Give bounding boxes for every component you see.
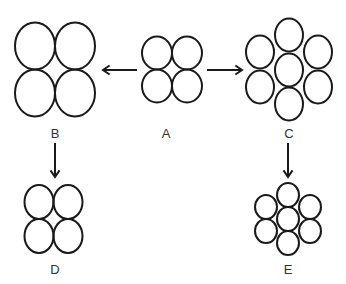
circle-shape — [275, 54, 303, 87]
arrow-a-to-c — [207, 65, 242, 74]
circle-shape — [55, 70, 95, 117]
arrow-c-to-e — [283, 143, 292, 177]
cluster-a — [142, 37, 202, 103]
circle-shape — [172, 37, 202, 70]
circle-shape — [304, 71, 332, 104]
circle-shape — [255, 195, 277, 219]
circle-shape — [277, 231, 299, 255]
label-e: E — [284, 262, 293, 277]
label-d: D — [50, 262, 59, 277]
cluster-d — [25, 185, 83, 253]
arrow-a-to-b — [103, 65, 137, 74]
circle-shape — [277, 207, 299, 231]
circle-shape — [172, 70, 202, 103]
circle-shape — [54, 185, 83, 219]
label-a: A — [162, 126, 171, 141]
circle-shape — [54, 219, 83, 253]
circle-shape — [55, 23, 95, 70]
circle-shape — [246, 36, 274, 69]
circle-shape — [246, 71, 274, 104]
label-c: C — [284, 126, 293, 141]
circle-shape — [304, 36, 332, 69]
circle-shape — [275, 88, 303, 121]
arrow-b-to-d — [50, 143, 59, 177]
circle-shape — [25, 185, 54, 219]
circle-shape — [299, 195, 321, 219]
cluster-e — [255, 183, 321, 255]
circle-shape — [275, 19, 303, 52]
circle-shape — [277, 183, 299, 207]
circle-shape — [142, 70, 172, 103]
circle-shape — [255, 219, 277, 243]
circle-shape — [15, 23, 55, 70]
circle-shape — [25, 219, 54, 253]
diagram-svg — [0, 0, 346, 284]
diagram-canvas: ABCDE — [0, 0, 346, 284]
circle-shape — [142, 37, 172, 70]
cluster-c — [246, 19, 332, 121]
circle-shape — [15, 70, 55, 117]
circle-shape — [299, 219, 321, 243]
label-b: B — [51, 126, 60, 141]
cluster-b — [15, 23, 95, 117]
